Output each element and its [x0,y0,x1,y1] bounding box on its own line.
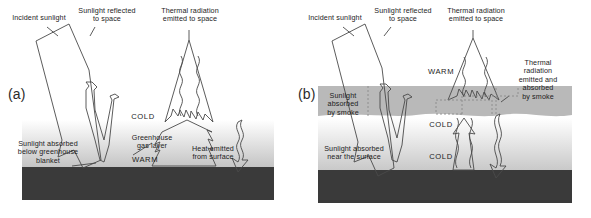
label-thermal-absorbed-smoke-b: Thermal radiation emitted and absorbed b… [510,59,566,101]
ground-surface [22,167,274,200]
label-warm-a: WARM [122,156,168,164]
label-thermal-radiation-b: Thermal radiation emitted to space [438,7,514,24]
ground-surface [318,170,572,203]
label-greenhouse-gas-layer-a: Greenhouse gas layer [122,134,182,151]
label-cold-upper-b: COLD [418,121,464,129]
panel-a-label: (a) [8,86,26,102]
label-sunlight-reflected-b: Sunlight reflected to space [368,7,438,24]
label-warm-b: WARM [418,68,464,76]
leader-reflected-sunlight [90,27,95,36]
label-incident-sunlight-b: Incident sunlight [302,14,368,22]
greenhouse-smoke-diagram: (a) Incident sunlight Sunlight reflected… [0,0,591,218]
label-sunlight-absorbed-a: Sunlight absorbed below greenhouse blank… [10,140,86,165]
label-incident-sunlight-a: Incident sunlight [6,14,72,22]
panel-a: (a) Incident sunlight Sunlight reflected… [0,0,295,218]
panel-b: (b) Incident sunlight Sunlight reflected… [296,0,591,218]
leader-reflected-sunlight [384,27,391,36]
panel-a-graphics [0,0,295,218]
label-cold-lower-b: COLD [418,153,464,161]
thermal-radiation-arrow [165,40,213,122]
thermal-wave-right [197,56,200,116]
label-sunlight-reflected-a: Sunlight reflected to space [72,7,142,24]
label-heat-emitted-a: Heat emitted from surface [186,145,240,162]
label-thermal-radiation-a: Thermal radiation emitted to space [152,7,228,24]
label-sunlight-absorbed-smoke-b: Sunlight absorbed by smoke [314,92,372,117]
label-sunlight-absorbed-surface-b: Sunlight absorbed near the surface [310,145,398,162]
label-cold-a: COLD [120,113,166,121]
